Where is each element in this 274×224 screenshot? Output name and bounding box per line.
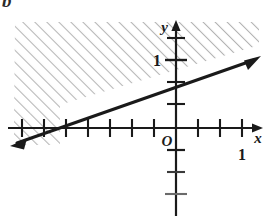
figure-canvas: b	[0, 0, 274, 224]
y-axis-label: y	[159, 19, 168, 35]
x-axis-label: x	[253, 130, 262, 146]
origin-label: O	[162, 133, 173, 149]
coordinate-plane-graph: y x O 1 1	[0, 0, 274, 224]
x-tick-label-1: 1	[238, 146, 246, 163]
shaded-solution-region	[14, 22, 259, 145]
y-tick-label-1: 1	[153, 52, 161, 69]
